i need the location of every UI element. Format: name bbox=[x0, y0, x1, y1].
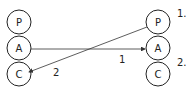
arrow-1-label: 1 bbox=[119, 54, 125, 65]
right-node-p-label: P bbox=[155, 17, 161, 28]
side-label-1: 1. bbox=[177, 8, 187, 19]
right-stack: P A C bbox=[146, 10, 170, 86]
left-node-p-label: P bbox=[16, 17, 22, 28]
left-node-c-label: C bbox=[16, 69, 23, 80]
arrow-2 bbox=[29, 27, 147, 72]
diagram: P A C P A C 1 2 1. 2. bbox=[0, 0, 189, 95]
right-node-a-label: A bbox=[155, 43, 162, 54]
arrow-2-label: 2 bbox=[53, 67, 59, 78]
left-stack: P A C bbox=[7, 10, 31, 86]
right-node-c-label: C bbox=[155, 69, 162, 80]
left-node-a-label: A bbox=[16, 43, 23, 54]
side-label-2: 2. bbox=[177, 57, 187, 68]
